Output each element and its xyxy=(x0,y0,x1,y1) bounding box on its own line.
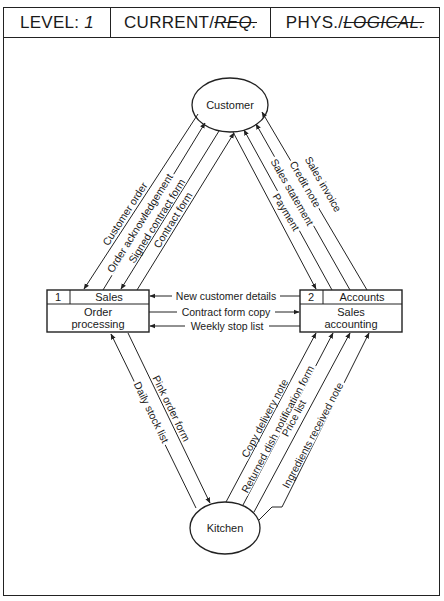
flows-between-processes: New customer details Contract form copy … xyxy=(149,289,300,332)
flows-kitchen-accounts: Copy delivery note Returned dish notific… xyxy=(226,333,369,520)
customer-entity: Customer xyxy=(192,78,268,132)
process-1-name-line2: processing xyxy=(71,318,124,330)
data-flow-diagram: Customer Kitchen 1 Sales Order processin… xyxy=(0,0,444,601)
process-2-sales-accounting: 2 Accounts Sales accounting xyxy=(300,290,402,332)
kitchen-entity: Kitchen xyxy=(190,502,260,554)
process-1-name-line1: Order xyxy=(84,306,112,318)
kitchen-label: Kitchen xyxy=(207,522,244,534)
flows-sales-kitchen: Pink order form Daily stock list xyxy=(111,333,210,508)
svg-text:Contract form copy: Contract form copy xyxy=(182,306,271,318)
svg-text:New customer details: New customer details xyxy=(176,290,276,302)
process-2-name-line2: accounting xyxy=(324,318,377,330)
process-2-name-line1: Sales xyxy=(337,306,365,318)
flows-customer-sales: Customer order Order acknowledgement Sig… xyxy=(84,114,234,290)
process-1-order-processing: 1 Sales Order processing xyxy=(47,290,149,332)
process-2-id: 2 xyxy=(308,291,314,303)
flows-customer-accounts: Payment Sales statement Credit note Sale… xyxy=(233,112,367,290)
svg-text:Weekly stop list: Weekly stop list xyxy=(191,320,264,332)
process-1-location: Sales xyxy=(95,291,123,303)
process-1-id: 1 xyxy=(55,291,61,303)
process-2-location: Accounts xyxy=(339,291,385,303)
customer-label: Customer xyxy=(206,99,254,111)
flow-pink-order-form xyxy=(128,333,210,503)
